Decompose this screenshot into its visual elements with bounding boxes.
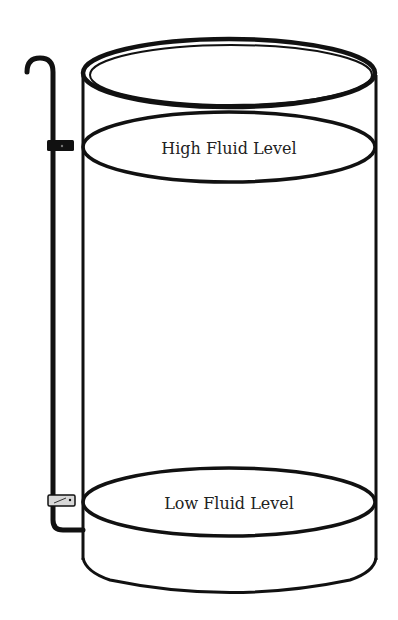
tank-top-rim-inner xyxy=(90,45,372,105)
low-level-label: Low Fluid Level xyxy=(164,494,294,513)
tank-bottom xyxy=(83,558,376,593)
upper-clamp xyxy=(47,140,74,151)
high-level-label: High Fluid Level xyxy=(161,139,296,158)
tank-diagram: High Fluid Level Low Fluid Level xyxy=(0,0,398,620)
lower-clamp xyxy=(48,495,75,506)
sight-tube xyxy=(27,58,83,530)
